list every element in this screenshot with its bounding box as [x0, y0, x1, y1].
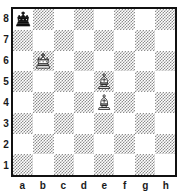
square-e1[interactable] [94, 154, 114, 175]
square-a5[interactable] [13, 71, 33, 92]
square-e2[interactable] [94, 134, 114, 155]
square-c3[interactable] [54, 113, 74, 134]
square-a7[interactable] [13, 30, 33, 51]
square-c5[interactable] [54, 71, 74, 92]
file-label-h: h [156, 178, 177, 194]
square-f5[interactable] [114, 71, 134, 92]
file-label-d: d [74, 178, 95, 194]
square-f3[interactable] [114, 113, 134, 134]
square-g3[interactable] [135, 113, 155, 134]
square-h3[interactable] [155, 113, 175, 134]
square-c7[interactable] [54, 30, 74, 51]
square-a6[interactable] [13, 51, 33, 72]
square-e3[interactable] [94, 113, 114, 134]
square-d1[interactable] [74, 154, 94, 175]
file-labels: a b c d e f g h [12, 178, 176, 194]
square-d8[interactable] [74, 9, 94, 30]
square-e8[interactable] [94, 9, 114, 30]
white-king-icon [33, 51, 53, 72]
square-f8[interactable] [114, 9, 134, 30]
chess-diagram: 8 7 6 5 4 3 2 1 [0, 0, 188, 196]
black-king-icon [13, 9, 33, 30]
square-f4[interactable] [114, 92, 134, 113]
file-label-f: f [115, 178, 136, 194]
square-e5[interactable] [94, 71, 114, 92]
square-g4[interactable] [135, 92, 155, 113]
square-f7[interactable] [114, 30, 134, 51]
square-b5[interactable] [33, 71, 53, 92]
square-b6[interactable] [33, 51, 53, 72]
square-b8[interactable] [33, 9, 53, 30]
square-h2[interactable] [155, 134, 175, 155]
square-h5[interactable] [155, 71, 175, 92]
square-h4[interactable] [155, 92, 175, 113]
square-b4[interactable] [33, 92, 53, 113]
square-b2[interactable] [33, 134, 53, 155]
square-a4[interactable] [13, 92, 33, 113]
square-h7[interactable] [155, 30, 175, 51]
square-d5[interactable] [74, 71, 94, 92]
square-c6[interactable] [54, 51, 74, 72]
square-g6[interactable] [135, 51, 155, 72]
square-a3[interactable] [13, 113, 33, 134]
file-label-b: b [33, 178, 54, 194]
square-g2[interactable] [135, 134, 155, 155]
square-f2[interactable] [114, 134, 134, 155]
square-b3[interactable] [33, 113, 53, 134]
square-d6[interactable] [74, 51, 94, 72]
file-label-c: c [53, 178, 74, 194]
white-bishop-icon [94, 92, 114, 113]
square-g7[interactable] [135, 30, 155, 51]
square-a2[interactable] [13, 134, 33, 155]
square-d4[interactable] [74, 92, 94, 113]
square-h6[interactable] [155, 51, 175, 72]
square-d2[interactable] [74, 134, 94, 155]
square-e7[interactable] [94, 30, 114, 51]
square-b7[interactable] [33, 30, 53, 51]
square-a8[interactable] [13, 9, 33, 30]
file-label-a: a [12, 178, 33, 194]
square-h1[interactable] [155, 154, 175, 175]
square-b1[interactable] [33, 154, 53, 175]
square-c2[interactable] [54, 134, 74, 155]
white-bishop-icon [94, 71, 114, 92]
square-c4[interactable] [54, 92, 74, 113]
square-g8[interactable] [135, 9, 155, 30]
square-g5[interactable] [135, 71, 155, 92]
square-e4[interactable] [94, 92, 114, 113]
square-f6[interactable] [114, 51, 134, 72]
file-label-g: g [135, 178, 156, 194]
square-d7[interactable] [74, 30, 94, 51]
square-d3[interactable] [74, 113, 94, 134]
chess-board [13, 9, 175, 175]
square-c1[interactable] [54, 154, 74, 175]
square-a1[interactable] [13, 154, 33, 175]
square-e6[interactable] [94, 51, 114, 72]
square-g1[interactable] [135, 154, 155, 175]
square-h8[interactable] [155, 9, 175, 30]
square-f1[interactable] [114, 154, 134, 175]
square-c8[interactable] [54, 9, 74, 30]
file-label-e: e [94, 178, 115, 194]
